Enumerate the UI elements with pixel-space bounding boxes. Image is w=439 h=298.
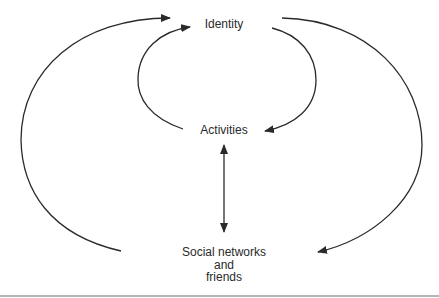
node-identity: Identity xyxy=(184,18,264,31)
node-social-line3: friends xyxy=(170,271,278,284)
node-social-line1: Social networks xyxy=(170,246,278,259)
arrow-activities-to-identity xyxy=(138,27,190,129)
arrow-social-to-identity xyxy=(21,18,170,251)
arrow-identity-to-social xyxy=(282,18,422,252)
node-social-networks: Social networks and friends xyxy=(170,246,278,284)
bottom-divider xyxy=(0,295,439,297)
arrow-identity-to-activities xyxy=(265,28,316,131)
node-activities: Activities xyxy=(184,124,264,137)
